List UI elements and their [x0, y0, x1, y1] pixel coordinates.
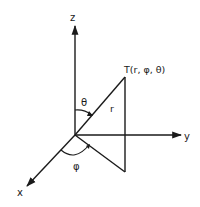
phi-arc	[61, 145, 89, 155]
x-axis-label: x	[17, 187, 23, 198]
theta-arc-arrowhead	[87, 111, 93, 116]
horizontal-projection-line	[75, 135, 125, 172]
phi-label: φ	[73, 161, 80, 172]
theta-label: θ	[81, 97, 87, 108]
spherical-coordinates-diagram: z y x T(r, φ, θ) r θ φ	[0, 0, 200, 207]
z-axis-label: z	[70, 12, 75, 23]
x-axis	[27, 135, 75, 186]
y-axis-label: y	[184, 131, 190, 142]
point-t-label: T(r, φ, θ)	[123, 64, 165, 75]
radius-label: r	[110, 103, 114, 114]
